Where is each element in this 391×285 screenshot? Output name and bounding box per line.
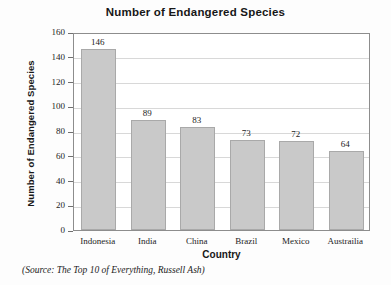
gridline	[74, 157, 369, 158]
y-tick-label: 160	[25, 27, 65, 37]
y-tick-label: 100	[25, 101, 65, 111]
source-caption: (Source: The Top 10 of Everything, Russe…	[22, 265, 205, 275]
y-tick-label: 140	[25, 52, 65, 62]
bar-value-label: 89	[127, 108, 167, 118]
bar-value-label: 83	[177, 115, 217, 125]
bar-value-label: 64	[325, 139, 365, 149]
gridline	[74, 58, 369, 59]
y-tick-label: 80	[25, 126, 65, 136]
bar-chart-figure: Number of Endangered Species Number of E…	[0, 0, 391, 285]
bar-value-label: 146	[78, 37, 118, 47]
y-tick-label: 0	[25, 225, 65, 235]
bar-value-label: 73	[226, 128, 266, 138]
bar	[329, 151, 364, 230]
x-axis-title: Country	[73, 249, 370, 260]
gridline	[74, 108, 369, 109]
bar	[180, 127, 215, 230]
gridline	[74, 133, 369, 134]
gridline	[74, 83, 369, 84]
bar-value-label: 72	[276, 129, 316, 139]
bar	[279, 141, 314, 230]
plot-area	[73, 33, 370, 231]
y-tick-label: 120	[25, 77, 65, 87]
chart-title: Number of Endangered Species	[0, 6, 391, 18]
gridline	[74, 182, 369, 183]
y-tick-label: 40	[25, 176, 65, 186]
x-category-label: Austrailia	[315, 236, 375, 246]
y-tick-label: 60	[25, 151, 65, 161]
y-tick-label: 20	[25, 200, 65, 210]
bar	[230, 140, 265, 230]
bar	[131, 120, 166, 230]
gridline	[74, 207, 369, 208]
bar	[81, 49, 116, 230]
